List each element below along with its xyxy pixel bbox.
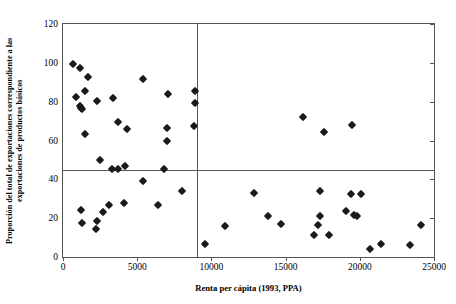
data-point (81, 87, 89, 95)
x-axis-tick (360, 257, 361, 261)
data-point (250, 189, 258, 197)
data-point (163, 137, 171, 145)
data-point (72, 93, 80, 101)
data-point (277, 220, 285, 228)
data-point (191, 87, 199, 95)
x-axis-tick (63, 257, 64, 261)
data-point (160, 164, 168, 172)
y-axis-tick-label: 120 (44, 19, 58, 29)
y-axis-tick-label: 80 (49, 97, 59, 107)
data-point (406, 241, 414, 249)
x-axis-tick-label: 0 (61, 262, 66, 272)
y-axis-tick-label: 60 (49, 136, 59, 146)
data-point (376, 240, 384, 248)
plot-area: 0204060801001200500010000150002000025000 (62, 23, 435, 258)
data-point (105, 200, 113, 208)
data-point (99, 208, 107, 216)
x-axis-tick (211, 257, 212, 261)
y-axis-tick-label: 20 (49, 213, 59, 223)
y-axis-tick (430, 24, 434, 25)
y-axis-tick-label: 100 (44, 58, 58, 68)
chart-figure: Proporción del total de exportaciones co… (0, 0, 456, 304)
data-point (93, 217, 101, 225)
data-point (416, 221, 424, 229)
data-point (163, 124, 171, 132)
x-axis-tick (434, 257, 435, 261)
data-point (191, 98, 199, 106)
data-point (348, 121, 356, 129)
x-axis-tick (137, 257, 138, 261)
data-point (84, 73, 92, 81)
data-point (77, 206, 85, 214)
data-point (77, 219, 85, 227)
data-point (76, 63, 84, 71)
data-point (264, 212, 272, 220)
data-point (315, 187, 323, 195)
data-point (320, 128, 328, 136)
data-point (347, 190, 355, 198)
data-point (310, 230, 318, 238)
data-point (123, 125, 131, 133)
data-point (96, 156, 104, 164)
y-axis-title-text: Proporción del total de exportaciones co… (5, 23, 26, 258)
x-axis-tick-label: 15000 (274, 262, 298, 272)
data-point (299, 113, 307, 121)
y-axis-tick-label: 40 (49, 174, 59, 184)
y-axis-tick (430, 141, 434, 142)
data-point (120, 198, 128, 206)
data-point (221, 222, 229, 230)
data-point (315, 212, 323, 220)
data-point (93, 96, 101, 104)
data-point (357, 190, 365, 198)
x-axis-tick-label: 20000 (348, 262, 372, 272)
reference-line-vertical (197, 24, 198, 257)
data-point (109, 94, 117, 102)
y-axis-tick (430, 63, 434, 64)
data-point (314, 221, 322, 229)
data-point (92, 225, 100, 233)
data-point (81, 129, 89, 137)
data-point (164, 90, 172, 98)
data-point (114, 118, 122, 126)
x-axis-tick-label: 5000 (128, 262, 147, 272)
data-point (324, 230, 332, 238)
x-axis-tick (286, 257, 287, 261)
y-axis-tick-label: 0 (53, 252, 58, 262)
x-axis-tick-label: 10000 (200, 262, 224, 272)
data-point (139, 75, 147, 83)
data-point (201, 240, 209, 248)
y-axis-tick (430, 218, 434, 219)
data-point (154, 200, 162, 208)
x-axis-tick-label: 25000 (422, 262, 446, 272)
y-axis-tick (430, 102, 434, 103)
data-point (177, 187, 185, 195)
data-point (78, 105, 86, 113)
y-axis-tick (430, 179, 434, 180)
data-point (139, 177, 147, 185)
x-axis-title: Renta per cápita (1993, PPA) (62, 283, 435, 293)
data-point (366, 245, 374, 253)
y-axis-title: Proporción del total de exportaciones co… (2, 23, 28, 258)
